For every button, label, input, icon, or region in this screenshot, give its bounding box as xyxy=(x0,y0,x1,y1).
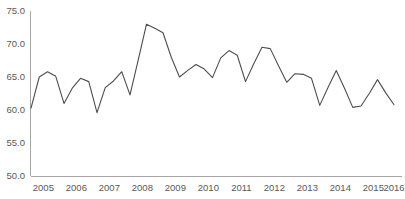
x-tick-label: 2007 xyxy=(99,182,120,193)
y-tick-label: 50.0 xyxy=(7,170,26,181)
x-tick-label: 2010 xyxy=(198,182,219,193)
x-tick-label: 2009 xyxy=(165,182,186,193)
x-tick-label: 2015 xyxy=(363,182,384,193)
x-tick-label: 2011 xyxy=(231,182,251,193)
chart-canvas: 50.055.060.065.070.075.0 200520062007200… xyxy=(0,0,405,199)
y-tick-label: 70.0 xyxy=(7,38,26,49)
x-tick-label: 2013 xyxy=(297,182,318,193)
x-tick-label: 2006 xyxy=(66,182,87,193)
line-chart: 50.055.060.065.070.075.0 200520062007200… xyxy=(0,0,405,199)
y-tick-label: 55.0 xyxy=(7,137,26,148)
y-tick-label: 65.0 xyxy=(7,71,26,82)
y-tick-label: 75.0 xyxy=(7,5,26,16)
y-tick-label: 60.0 xyxy=(7,104,26,115)
x-tick-label: 2012 xyxy=(264,182,285,193)
x-axis-tick-labels: 2005200620072008200920102011201220132014… xyxy=(33,182,405,193)
x-tick-label: 2008 xyxy=(132,182,153,193)
data-series-line xyxy=(31,24,394,112)
y-axis-tick-labels: 50.055.060.065.070.075.0 xyxy=(7,5,26,181)
x-tick-label: 2005 xyxy=(33,182,54,193)
x-tick-label: 2014 xyxy=(330,182,351,193)
x-tick-label: 2016 xyxy=(383,182,404,193)
